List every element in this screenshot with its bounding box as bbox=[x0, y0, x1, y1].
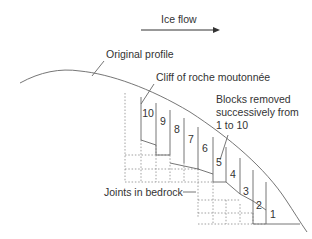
ice-flow-label: Ice flow bbox=[161, 13, 197, 25]
blocks-label-line3: 1 to 10 bbox=[216, 119, 248, 131]
joints-label: Joints in bedrock bbox=[104, 186, 184, 198]
block-7: 7 bbox=[188, 133, 194, 145]
block-10: 10 bbox=[142, 107, 154, 119]
original-profile-label: Original profile bbox=[106, 48, 174, 60]
roche-moutonnee-diagram: Ice flow Original profile Cliff of roche… bbox=[0, 0, 312, 239]
blocks-label-line2: successively from bbox=[216, 106, 299, 118]
ice-flow-arrow bbox=[141, 27, 220, 33]
block-1: 1 bbox=[270, 208, 276, 220]
block-6: 6 bbox=[202, 142, 208, 154]
block-8: 8 bbox=[174, 123, 180, 135]
cliff-leader bbox=[141, 84, 154, 104]
block-9: 9 bbox=[160, 115, 166, 127]
cliff-label: Cliff of roche moutonnée bbox=[156, 71, 270, 83]
blocks-label-line1: Blocks removed bbox=[216, 93, 291, 105]
block-5: 5 bbox=[216, 156, 222, 168]
block-3: 3 bbox=[243, 185, 249, 197]
block-2: 2 bbox=[256, 199, 262, 211]
block-4: 4 bbox=[230, 168, 236, 180]
